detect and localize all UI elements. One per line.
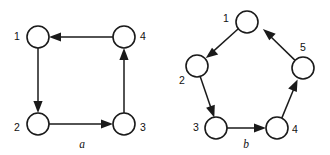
edge-a1-to-a2-arrowhead: [33, 101, 42, 113]
node-label-b2: 2: [179, 74, 185, 86]
node-b2[interactable]: [186, 55, 208, 77]
edge-a1-to-a2: [33, 48, 42, 113]
edge-b4-to-b5-line: [282, 86, 295, 118]
edge-b3-to-b4-arrowhead: [254, 123, 266, 132]
edge-a3-to-a4-arrowhead: [119, 48, 128, 60]
edge-b2-to-b3-line: [200, 77, 212, 112]
graph-caption-b: b: [243, 138, 249, 150]
node-label-b5: 5: [300, 41, 306, 53]
node-label-b1: 1: [223, 12, 229, 24]
edge-a4-to-a1: [49, 32, 113, 41]
node-label-b3: 3: [193, 121, 199, 133]
node-label-a4: 4: [140, 30, 146, 42]
edge-b4-to-b5-arrowhead: [288, 80, 297, 92]
node-a4[interactable]: [113, 26, 135, 48]
node-label-b4: 4: [292, 123, 298, 135]
edge-a2-to-a3: [49, 119, 113, 128]
directed-graph-diagram: 1 2 3 4 a: [0, 0, 330, 155]
edge-b5-to-b1-line: [268, 34, 295, 60]
node-label-a3: 3: [140, 121, 146, 133]
node-label-a1: 1: [14, 30, 20, 42]
edge-b5-to-b1: [263, 29, 295, 60]
node-label-a2: 2: [14, 121, 20, 133]
edge-b2-to-b3: [200, 77, 215, 118]
edge-a3-to-a4: [119, 48, 128, 113]
edge-b1-to-b2-line: [211, 29, 238, 54]
node-a3[interactable]: [113, 113, 135, 135]
figure-root: 1 2 3 4 a: [0, 0, 330, 155]
edge-a2-to-a3-arrowhead: [101, 119, 113, 128]
edge-a4-to-a1-arrowhead: [49, 32, 61, 41]
graph-caption-a: a: [79, 138, 85, 150]
edge-b1-to-b2: [206, 29, 239, 58]
edge-b3-to-b4: [227, 123, 266, 132]
node-a1[interactable]: [27, 26, 49, 48]
edge-b2-to-b3-arrowhead: [206, 105, 215, 118]
node-b4[interactable]: [266, 117, 288, 139]
node-a2[interactable]: [27, 113, 49, 135]
node-b1[interactable]: [236, 11, 258, 33]
node-b3[interactable]: [205, 117, 227, 139]
node-b5[interactable]: [292, 57, 314, 79]
graph-a: 1 2 3 4 a: [14, 26, 146, 150]
graph-b: 1 2 3 4 5 b: [179, 11, 314, 150]
edge-b4-to-b5: [282, 80, 298, 118]
